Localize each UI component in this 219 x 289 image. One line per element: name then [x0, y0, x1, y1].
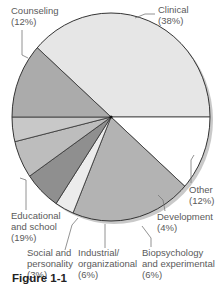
label-educational: Educational and school (19%): [11, 210, 61, 243]
label-clinical: Clinical (38%): [158, 4, 189, 26]
label-counseling: Counseling (12%): [11, 5, 59, 27]
pie-chart: [0, 0, 219, 289]
figure-caption: Figure 1-1: [12, 272, 67, 284]
leader-educational: [20, 178, 26, 210]
leader-counseling: [22, 30, 28, 58]
label-development: Development (4%): [157, 211, 213, 233]
pie-center: [109, 115, 112, 118]
label-bio: Biopsychology and experimental (6%): [142, 247, 215, 280]
label-industrial: Industrial/ organizational (6%): [78, 247, 137, 280]
label-other: Other (12%): [189, 184, 214, 206]
leader-bio: [142, 226, 151, 247]
leader-social: [65, 218, 78, 250]
